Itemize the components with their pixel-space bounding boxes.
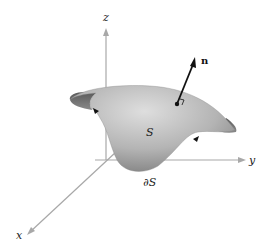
z-axis-arrowhead-icon [103,28,109,36]
normal-arrowhead-icon [190,57,196,68]
boundary-arrow-right-icon [193,136,199,142]
z-axis: z [102,11,109,160]
z-axis-label: z [102,11,109,24]
y-axis-label: y [248,154,256,167]
normal-label: n [201,55,209,66]
normal-base-point [175,102,179,106]
surface-label: S [146,126,154,139]
y-axis-arrowhead-icon [238,157,246,163]
stokes-theorem-diagram: z y x S ∂S n [0,0,270,252]
x-axis-label: x [16,229,23,242]
x-axis: x [16,152,116,242]
surface-s: S [70,86,237,172]
boundary-label: ∂S [143,176,157,189]
